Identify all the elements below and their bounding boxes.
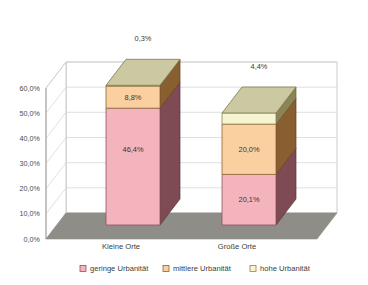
y-tick-label: 10,0% <box>20 209 41 218</box>
legend-swatch-mittlere-icon <box>163 266 169 272</box>
data-label-kleine-hohe: 0,3% <box>135 34 152 43</box>
data-label-kleine-geringe: 46,4% <box>123 145 144 154</box>
legend-item-hohe[interactable]: hohe Urbanität <box>250 264 311 273</box>
legend-swatch-geringe-icon <box>80 266 86 272</box>
x-axis-labels: Kleine Orte Große Orte <box>102 242 256 251</box>
y-tick-label: 50,0% <box>20 109 41 118</box>
legend-label-mittlere: mittlere Urbanität <box>173 264 232 273</box>
legend-swatch-hohe-icon <box>250 266 256 272</box>
data-label-grosse-hohe: 4,4% <box>251 62 268 71</box>
y-tick-label: 30,0% <box>20 159 41 168</box>
segment-front-face <box>222 113 276 124</box>
y-tick-label: 20,0% <box>20 184 41 193</box>
y-tick-label: 40,0% <box>20 134 41 143</box>
chart-legend: geringe Urbanität mittlere Urbanität hoh… <box>80 264 311 273</box>
y-tick-label: 0,0% <box>24 235 41 244</box>
plot-floor <box>46 213 337 239</box>
segment-front-face <box>106 108 160 225</box>
legend-label-hohe: hohe Urbanität <box>260 264 311 273</box>
data-label-grosse-geringe: 20,1% <box>239 195 260 204</box>
data-label-grosse-mittlere: 20,0% <box>239 145 260 154</box>
x-category-label-grosse-orte: Große Orte <box>218 242 256 251</box>
chart-container: 60,0% 50,0% 40,0% 30,0% 20,0% 10,0% 0,0% <box>0 0 368 285</box>
legend-item-mittlere[interactable]: mittlere Urbanität <box>163 264 232 273</box>
stacked-column-chart: 60,0% 50,0% 40,0% 30,0% 20,0% 10,0% 0,0% <box>0 0 368 285</box>
data-label-kleine-mittlere: 8,8% <box>125 93 142 102</box>
x-category-label-kleine-orte: Kleine Orte <box>102 242 140 251</box>
legend-label-geringe: geringe Urbanität <box>90 264 149 273</box>
legend-item-geringe[interactable]: geringe Urbanität <box>80 264 149 273</box>
y-axis-labels: 60,0% 50,0% 40,0% 30,0% 20,0% 10,0% 0,0% <box>20 84 41 244</box>
y-tick-label: 60,0% <box>20 84 41 93</box>
plot-left-wall <box>46 62 66 239</box>
